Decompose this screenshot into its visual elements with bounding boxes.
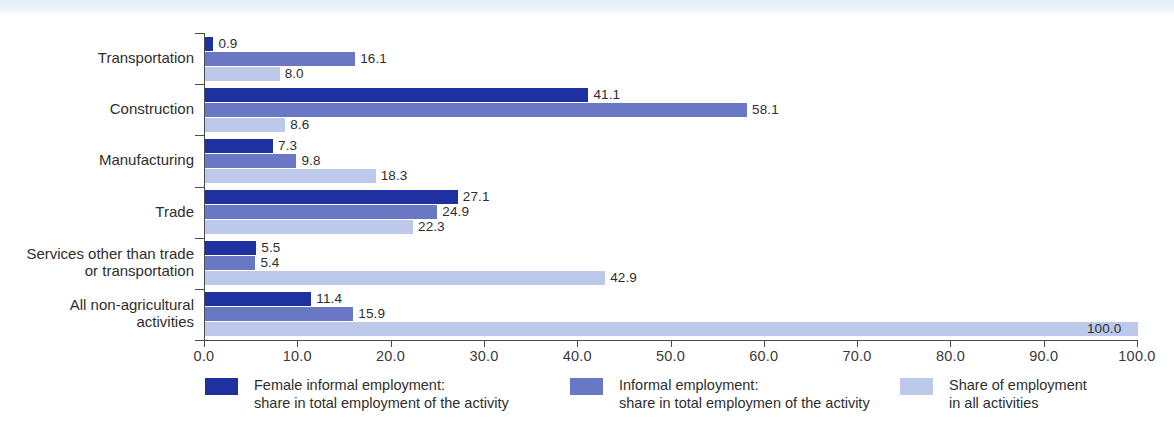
bar-value-label: 27.1: [463, 189, 490, 204]
bar-value-label: 16.1: [360, 51, 387, 66]
bar: [205, 271, 605, 285]
x-axis-tick: [764, 341, 765, 347]
bar-value-label: 24.9: [442, 204, 469, 219]
y-axis-tick: [195, 238, 204, 239]
legend-item[interactable]: Share of employment in all activities: [900, 376, 1087, 412]
category-label: Manufacturing: [0, 151, 194, 168]
bar: [205, 154, 296, 168]
x-axis-tick-label: 40.0: [563, 348, 592, 364]
category-label: Transportation: [0, 49, 194, 66]
x-axis-tick-label: 80.0: [936, 348, 965, 364]
bar-value-label: 100.0: [1087, 321, 1121, 336]
bar-value-label: 8.0: [285, 66, 304, 81]
x-axis-tick-label: 10.0: [283, 348, 312, 364]
x-axis-tick-label: 60.0: [749, 348, 778, 364]
bar: [205, 256, 255, 270]
y-axis-tick: [195, 33, 204, 34]
bar: [205, 307, 353, 321]
bar-value-label: 5.5: [261, 240, 280, 255]
bar-value-label: 18.3: [381, 168, 408, 183]
y-axis-tick: [195, 135, 204, 136]
bar: [205, 139, 273, 153]
plot-area: 0.010.020.030.040.050.060.070.080.090.01…: [0, 0, 1174, 435]
x-axis-tick: [1044, 341, 1045, 347]
x-axis-tick-label: 70.0: [843, 348, 872, 364]
bar: [205, 322, 1138, 336]
x-axis-tick: [484, 341, 485, 347]
bar-value-label: 7.3: [278, 138, 297, 153]
bar-value-label: 22.3: [418, 219, 445, 234]
category-label: Construction: [0, 100, 194, 117]
category-label: Services other than trade or transportat…: [0, 245, 194, 279]
bar-value-label: 11.4: [316, 291, 342, 306]
bar-value-label: 8.6: [290, 117, 309, 132]
bar: [205, 37, 213, 51]
bar: [205, 205, 437, 219]
x-axis-tick: [671, 341, 672, 347]
bar: [205, 118, 285, 132]
legend-item[interactable]: Female informal employment: share in tot…: [205, 376, 509, 412]
x-axis-tick-label: 50.0: [656, 348, 685, 364]
x-axis-tick: [1137, 341, 1138, 347]
legend-label: Female informal employment: share in tot…: [254, 376, 509, 412]
bar-value-label: 42.9: [610, 270, 637, 285]
bar: [205, 241, 256, 255]
x-axis-tick: [297, 341, 298, 347]
category-label: Trade: [0, 203, 194, 220]
y-axis-tick: [195, 289, 204, 290]
bar: [205, 103, 747, 117]
x-axis-tick-label: 30.0: [469, 348, 498, 364]
x-axis-tick: [577, 341, 578, 347]
y-axis-tick: [195, 340, 204, 341]
bar-value-label: 15.9: [358, 306, 385, 321]
bar: [205, 220, 413, 234]
x-axis-tick: [857, 341, 858, 347]
bar: [205, 88, 588, 102]
bar-value-label: 58.1: [752, 102, 779, 117]
bar-value-label: 0.9: [218, 36, 237, 51]
bar: [205, 190, 458, 204]
x-axis-tick-label: 0.0: [194, 348, 215, 364]
legend-item[interactable]: Informal employment: share in total empl…: [570, 376, 870, 412]
x-axis-tick: [950, 341, 951, 347]
bar: [205, 292, 311, 306]
bar: [205, 169, 376, 183]
bar: [205, 52, 355, 66]
legend-label: Informal employment: share in total empl…: [619, 376, 870, 412]
legend-swatch-icon: [900, 378, 933, 395]
y-axis-tick: [195, 187, 204, 188]
legend-swatch-icon: [570, 378, 603, 395]
bar-value-label: 5.4: [260, 255, 279, 270]
y-axis-tick: [195, 84, 204, 85]
x-axis-tick-label: 100.0: [1118, 348, 1155, 364]
bar-value-label: 9.8: [301, 153, 320, 168]
legend-swatch-icon: [205, 378, 238, 395]
x-axis-tick-label: 90.0: [1029, 348, 1058, 364]
chart-legend: Female informal employment: share in tot…: [0, 372, 1174, 422]
x-axis-tick-label: 20.0: [376, 348, 405, 364]
category-label: All non-agricultural activities: [0, 296, 194, 330]
bar: [205, 67, 280, 81]
x-axis-tick: [391, 341, 392, 347]
bar-value-label: 41.1: [593, 87, 620, 102]
chart-figure: 0.010.020.030.040.050.060.070.080.090.01…: [0, 0, 1174, 435]
x-axis-tick: [204, 341, 205, 347]
legend-label: Share of employment in all activities: [949, 376, 1087, 412]
